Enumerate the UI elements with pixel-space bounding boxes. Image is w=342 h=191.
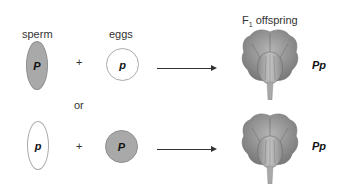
or-label: or (74, 99, 84, 111)
sperm-label: sperm (22, 28, 53, 40)
offspring-genotype: Pp (312, 59, 326, 71)
sperm-cell-recessive: p (27, 121, 49, 170)
plus-sign: + (76, 140, 82, 152)
purple-flower-icon (238, 26, 302, 100)
eggs-label: eggs (109, 28, 133, 40)
purple-flower-icon (238, 110, 302, 184)
arrow (157, 146, 217, 152)
plus-sign: + (76, 56, 82, 68)
arrow (157, 65, 217, 71)
offspring-genotype: Pp (312, 140, 326, 152)
egg-cell-dominant: P (105, 130, 138, 163)
egg-cell-recessive: p (106, 48, 139, 81)
sperm-cell-dominant: P (26, 41, 48, 90)
